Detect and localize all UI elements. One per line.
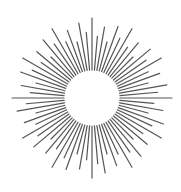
sun-ray bbox=[26, 100, 64, 103]
sun-ray bbox=[112, 57, 133, 78]
sun-ray bbox=[51, 118, 72, 139]
sunburst-icon bbox=[0, 0, 181, 192]
sunburst-canvas bbox=[0, 0, 181, 192]
sun-ray bbox=[94, 36, 97, 70]
sun-ray bbox=[51, 57, 72, 78]
sun-ray bbox=[87, 126, 90, 160]
sun-ray bbox=[30, 93, 64, 96]
sun-ray bbox=[86, 32, 89, 70]
sun-ray bbox=[120, 92, 158, 95]
sun-ray bbox=[120, 100, 154, 103]
sun-center-circle bbox=[65, 71, 119, 125]
sun-ray bbox=[94, 126, 97, 164]
sun-ray bbox=[112, 118, 133, 139]
